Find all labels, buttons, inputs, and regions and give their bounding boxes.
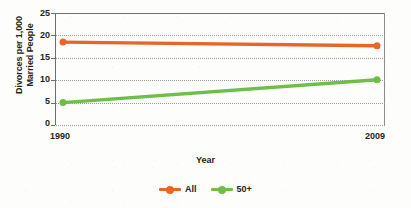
series-all	[60, 39, 381, 50]
y-tick-label-10: 10	[40, 75, 50, 84]
series-line	[63, 42, 377, 46]
chart-figure: Divorces per 1,000 Married People 25 20 …	[0, 0, 411, 208]
x-axis-title: Year	[0, 155, 411, 165]
legend-marker-50plus-icon	[211, 185, 233, 194]
x-tick-label-2009: 2009	[365, 131, 385, 141]
gridline-0	[56, 125, 385, 126]
data-point[interactable]	[60, 99, 67, 106]
y-tick-label-15: 15	[40, 53, 50, 62]
data-point[interactable]	[374, 76, 381, 83]
plot-area	[55, 13, 385, 125]
series-50-	[60, 76, 381, 106]
series-line	[63, 80, 377, 103]
chart-legend: All 50+	[0, 184, 411, 194]
y-tick-label-5: 5	[45, 97, 50, 106]
legend-marker-all-icon	[159, 185, 181, 194]
legend-item-50plus[interactable]: 50+	[211, 184, 252, 194]
y-tick-mark-0	[51, 125, 55, 126]
y-axis-title-line-1: Divorces per 1,000	[14, 16, 25, 94]
y-tick-label-0: 0	[45, 119, 50, 128]
data-series-layer	[55, 13, 385, 125]
y-tick-label-20: 20	[40, 31, 50, 40]
y-tick-label-25: 25	[40, 9, 50, 18]
legend-item-all[interactable]: All	[159, 184, 197, 194]
data-point[interactable]	[374, 42, 381, 49]
y-axis-tick-labels: 25 20 15 10 5 0	[30, 13, 50, 125]
data-point[interactable]	[60, 39, 67, 46]
legend-label-all: All	[185, 184, 197, 194]
legend-label-50plus: 50+	[237, 184, 252, 194]
x-tick-label-1990: 1990	[50, 131, 70, 141]
